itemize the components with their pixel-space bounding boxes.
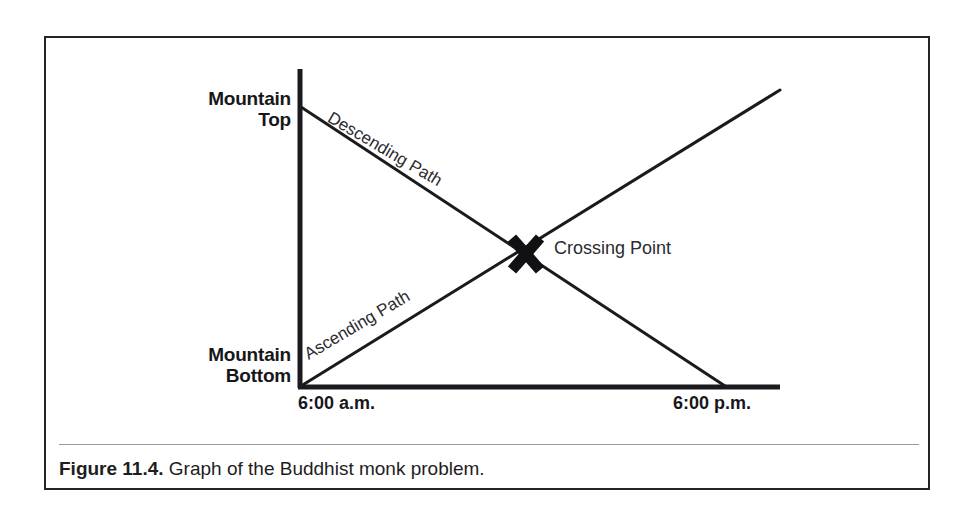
figure-frame: Mountain Top Mountain Bottom 6:00 a.m. 6… <box>44 36 930 490</box>
figure-caption: Figure 11.4. Graph of the Buddhist monk … <box>59 458 909 480</box>
figure-caption-text: Graph of the Buddhist monk problem. <box>164 458 485 479</box>
y-axis-bottom-label: Mountain Bottom <box>91 344 291 386</box>
figure-caption-number: Figure 11.4. <box>59 458 164 479</box>
x-axis-end-label: 6:00 p.m. <box>673 393 751 414</box>
crossing-point-label: Crossing Point <box>554 238 671 259</box>
figure-page: Mountain Top Mountain Bottom 6:00 a.m. 6… <box>0 0 974 523</box>
graph-area: Mountain Top Mountain Bottom 6:00 a.m. 6… <box>46 38 932 438</box>
x-axis-start-label: 6:00 a.m. <box>298 393 375 414</box>
caption-divider <box>59 444 919 445</box>
y-axis-top-label: Mountain Top <box>91 88 291 130</box>
